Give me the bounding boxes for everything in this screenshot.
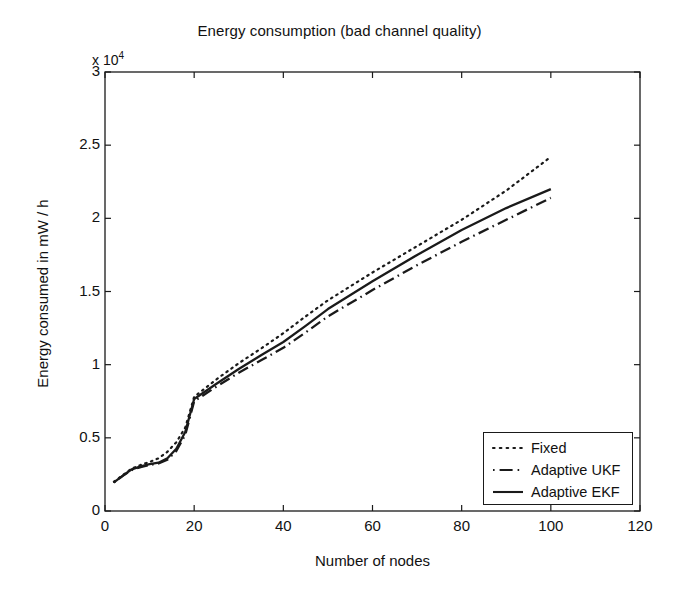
legend: Fixed Adaptive UKF Adaptive EKF [483, 432, 633, 505]
legend-swatch-solid [491, 485, 525, 499]
chart-figure: Energy consumption (bad channel quality)… [0, 0, 679, 592]
legend-label-adaptive-ekf: Adaptive EKF [531, 484, 620, 500]
legend-swatch-dotted [491, 441, 525, 455]
legend-swatch-dashdot [491, 463, 525, 477]
legend-item-fixed: Fixed [484, 437, 632, 459]
legend-label-fixed: Fixed [531, 440, 566, 456]
legend-item-adaptive-ukf: Adaptive UKF [484, 459, 632, 481]
legend-label-adaptive-ukf: Adaptive UKF [531, 462, 620, 478]
legend-item-adaptive-ekf: Adaptive EKF [484, 481, 632, 503]
